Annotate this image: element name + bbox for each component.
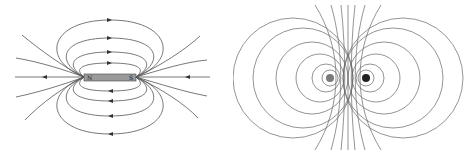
field-lines-bottom (57, 77, 163, 134)
conductor-right (362, 74, 370, 82)
field-lines-top (57, 20, 163, 77)
north-pole-label: N (87, 74, 92, 81)
field-circles-right (343, 18, 463, 138)
bar-magnet: N S (84, 74, 136, 81)
bar-magnet-diagram: N S (0, 0, 233, 154)
conductor-left (326, 74, 334, 82)
south-pole-label: S (129, 74, 133, 81)
field-lines-vertical (315, 5, 381, 150)
current-loop-diagram (233, 0, 467, 154)
field-circles-left (233, 18, 353, 138)
